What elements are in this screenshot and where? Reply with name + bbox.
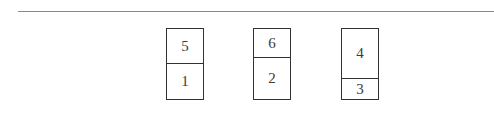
box-1-top-cell: 5 <box>167 29 203 64</box>
box-3-bottom-cell: 3 <box>342 79 378 99</box>
partition-box-2: 6 2 <box>253 28 291 100</box>
box-1-bottom-cell: 1 <box>167 64 203 99</box>
partition-box-3: 4 3 <box>341 28 379 100</box>
box-3-top-cell: 4 <box>342 29 378 79</box>
box-2-bottom-cell: 2 <box>254 58 290 99</box>
box-2-top-cell: 6 <box>254 29 290 58</box>
partition-box-1: 5 1 <box>166 28 204 100</box>
horizontal-rule <box>18 11 494 12</box>
